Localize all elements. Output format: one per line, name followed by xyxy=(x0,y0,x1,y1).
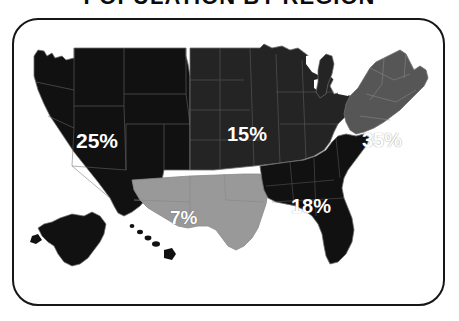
region-label-west: 25% xyxy=(76,130,118,151)
inset-alaska[interactable] xyxy=(30,212,106,266)
inset-hawaii[interactable] xyxy=(130,224,176,260)
us-map-svg xyxy=(14,20,443,304)
us-map: 25% 15% 35% 7% 18% xyxy=(14,20,443,304)
region-northeast[interactable] xyxy=(344,50,428,134)
region-label-southeast: 18% xyxy=(291,196,331,216)
screenshot-root: POPULATION BY REGION xyxy=(0,0,459,321)
chart-title-strip: POPULATION BY REGION xyxy=(0,0,459,14)
page-title: POPULATION BY REGION xyxy=(0,0,459,10)
region-southwest[interactable] xyxy=(132,174,268,250)
region-label-southwest: 7% xyxy=(170,208,197,227)
region-label-northeast: 35% xyxy=(362,130,402,150)
region-label-midwest: 15% xyxy=(227,124,267,144)
